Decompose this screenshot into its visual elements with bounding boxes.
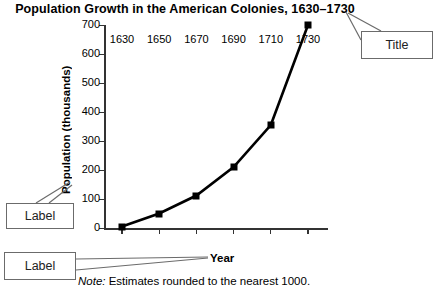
ylabel-callout-label: Label (25, 209, 56, 223)
chart-note-prefix: Note: (78, 275, 106, 287)
x-axis-line (104, 228, 328, 230)
y-tick-label: 0 (94, 221, 100, 234)
y-tick-label: 200 (82, 163, 100, 176)
chart-note-body: Estimates rounded to the nearest 1000. (106, 275, 311, 287)
title-callout-label: Title (385, 38, 408, 52)
x-tick-label: 1650 (147, 33, 171, 45)
x-tick-label: 1690 (221, 33, 245, 45)
x-tick-label: 1730 (296, 33, 320, 45)
x-tick-mark (196, 228, 197, 234)
x-tick-label: 1630 (110, 33, 134, 45)
x-tick-label: 1670 (184, 33, 208, 45)
x-tick-mark (159, 228, 160, 234)
data-point-marker (267, 122, 274, 129)
x-tick-mark (307, 228, 308, 234)
x-tick-label: 1710 (259, 33, 283, 45)
y-axis-title: Population (thousands) (58, 60, 74, 200)
plot-area: 0100200300400500600700 16301650167016901… (104, 25, 326, 228)
xlabel-callout-leader (76, 257, 208, 270)
y-tick-label: 400 (82, 105, 100, 118)
x-tick-mark (270, 228, 271, 234)
data-point-marker (193, 192, 200, 199)
data-point-marker (119, 223, 126, 230)
x-axis-title: Year (210, 252, 234, 264)
y-tick-label: 300 (82, 134, 100, 147)
data-point-marker (305, 22, 312, 29)
data-point-marker (156, 210, 163, 217)
xlabel-callout-label: Label (25, 259, 56, 273)
y-tick-label: 600 (82, 47, 100, 60)
y-tick-label: 500 (82, 76, 100, 89)
title-callout-box: Title (361, 31, 433, 59)
xlabel-callout-box: Label (4, 252, 76, 280)
y-tick-label: 700 (82, 18, 100, 31)
chart-title: Population Growth in the American Coloni… (0, 2, 370, 16)
chart-note: Note: Estimates rounded to the nearest 1… (78, 275, 310, 287)
x-tick-mark (233, 228, 234, 234)
ylabel-callout-box: Label (6, 203, 74, 229)
y-tick-label: 100 (82, 192, 100, 205)
data-point-marker (230, 164, 237, 171)
chart-figure: Population Growth in the American Coloni… (0, 0, 437, 288)
